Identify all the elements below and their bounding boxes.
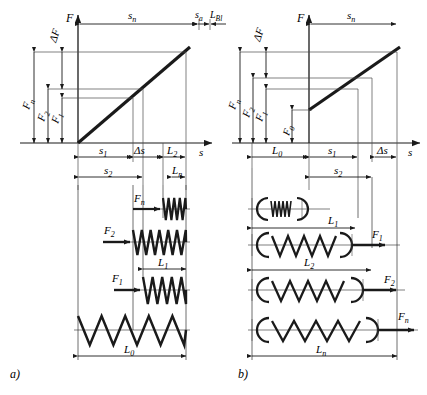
spring-b-dim-sub-L1: 1 bbox=[334, 220, 338, 229]
chart-b-label-s1-sub: 1 bbox=[332, 150, 336, 159]
spring-a-force-sub-1: n bbox=[141, 198, 145, 207]
spring-b-dim-label-Ln: L bbox=[315, 343, 322, 355]
spring-a-dim-sub-L1: 1 bbox=[164, 262, 168, 271]
spring-b-dim-label-L1: L bbox=[327, 214, 334, 226]
spring-a-force-sub-3: 1 bbox=[119, 278, 123, 287]
spring-b-force-sub-4: n bbox=[405, 316, 409, 325]
chart-a-label-sn-sub: n bbox=[132, 15, 136, 24]
chart-a-label-L2: L bbox=[166, 144, 173, 156]
chart-a-label-F: F bbox=[65, 11, 74, 25]
chart-a-label-Ln: L bbox=[171, 164, 178, 176]
chart-b-label-F: F bbox=[296, 11, 305, 25]
chart-a-label-s: s bbox=[199, 146, 203, 158]
chart-b-label-L0: L bbox=[271, 144, 278, 156]
chart-a-label-Ln-sub: n bbox=[178, 170, 182, 179]
spring-a-dim-label-L0: L bbox=[123, 343, 130, 355]
chart-a-label-s1-sub: 1 bbox=[103, 150, 107, 159]
chart-a-label-sa-sub: a bbox=[199, 14, 203, 23]
caption-a: a) bbox=[10, 367, 20, 381]
chart-a-label-LBl-sub: Bl bbox=[216, 14, 223, 23]
spring-a-dim-sub-L0: 0 bbox=[130, 349, 134, 358]
canvas-background bbox=[0, 0, 427, 395]
chart-b-label-L0-sub: 0 bbox=[278, 150, 282, 159]
spring-a-force-sub-2: 2 bbox=[111, 230, 115, 239]
spring-b-dim-sub-L2: 2 bbox=[310, 262, 314, 271]
chart-b-label-deltas: Δs bbox=[376, 144, 388, 156]
spring-b-dim-sub-Ln: n bbox=[322, 349, 326, 358]
figure-root: F s ΔF Fn F2 F1 sn sa LBl s1 Δs L2 s2 Ln bbox=[0, 0, 427, 395]
spring-characteristic-figure: F s ΔF Fn F2 F1 sn sa LBl s1 Δs L2 s2 Ln bbox=[0, 0, 427, 395]
chart-a-label-L2-sub: 2 bbox=[173, 150, 177, 159]
spring-b-force-sub-3: 2 bbox=[391, 279, 395, 288]
caption-b: b) bbox=[238, 367, 248, 381]
chart-b-label-sn-sub: n bbox=[351, 15, 355, 24]
spring-b-dim-label-L2: L bbox=[303, 256, 310, 268]
chart-a-label-s2-sub: 2 bbox=[108, 170, 112, 179]
chart-b-label-s2-sub: 2 bbox=[338, 170, 342, 179]
spring-a-dim-label-L1: L bbox=[157, 256, 164, 268]
spring-b-force-sub-2: 1 bbox=[379, 234, 383, 243]
chart-a-label-deltas: Δs bbox=[133, 144, 145, 156]
chart-b-label-s: s bbox=[408, 146, 412, 158]
